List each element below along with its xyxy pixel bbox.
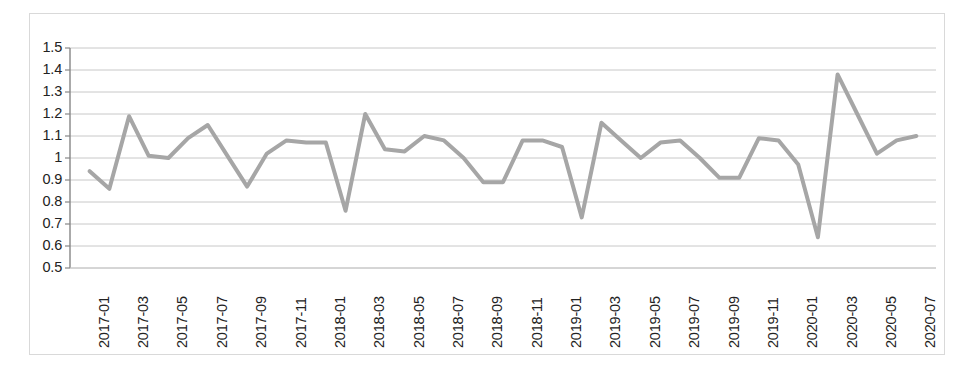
x-axis-tick-label: 2018-03 [371, 296, 387, 348]
x-axis-tick-label: 2020-05 [883, 296, 899, 348]
x-axis-tick-label: 2017-05 [174, 296, 190, 348]
x-axis-tick-label: 2018-01 [332, 296, 348, 348]
y-axis-tick-label: 1.3 [24, 83, 62, 99]
data-series-line [90, 74, 917, 237]
x-axis-tick-label: 2020-07 [922, 296, 938, 348]
x-axis-tick-label: 2020-03 [844, 296, 860, 348]
x-axis-tick-label: 2019-05 [647, 296, 663, 348]
x-axis-tick-label: 2018-05 [411, 296, 427, 348]
y-axis-tick-label: 0.9 [24, 171, 62, 187]
x-axis-tick-label: 2018-09 [489, 296, 505, 348]
x-axis-tick-label: 2017-01 [96, 296, 112, 348]
x-axis-tick-label: 2019-07 [686, 296, 702, 348]
y-axis-tick-label: 0.7 [24, 215, 62, 231]
x-axis-tick-label: 2020-01 [804, 296, 820, 348]
y-axis-tick-label: 0.8 [24, 193, 62, 209]
x-axis-tick-label: 2017-03 [135, 296, 151, 348]
x-axis-tick-label: 2018-11 [529, 297, 545, 348]
gridlines [70, 48, 936, 268]
x-axis-tick-label: 2017-09 [253, 296, 269, 348]
x-axis-tick-label: 2017-07 [214, 296, 230, 348]
x-axis-tick-label: 2019-01 [568, 296, 584, 348]
y-axis-tick-label: 0.5 [24, 259, 62, 275]
x-axis-tick-label: 2019-03 [607, 296, 623, 348]
x-axis-tick-label: 2019-09 [726, 296, 742, 348]
y-axis-tick-label: 1.1 [24, 127, 62, 143]
x-axis-tick-label: 2019-11 [765, 297, 781, 348]
y-axis-ticks [65, 48, 70, 268]
y-axis-tick-label: 0.6 [24, 237, 62, 253]
y-axis-tick-label: 1.5 [24, 39, 62, 55]
y-axis-tick-label: 1.4 [24, 61, 62, 77]
series-1-line [90, 74, 917, 237]
x-axis-tick-label: 2017-11 [293, 297, 309, 348]
y-axis-tick-label: 1 [24, 149, 62, 165]
y-axis-tick-label: 1.2 [24, 105, 62, 121]
x-axis-tick-label: 2018-07 [450, 296, 466, 348]
